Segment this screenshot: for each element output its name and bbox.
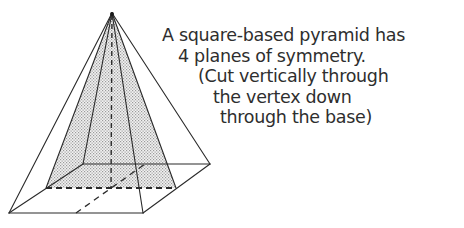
caption-line-2: 4 planes of symmetry. [178,46,366,66]
apex-vertex [110,12,114,16]
caption-line-4: the vertex down [213,87,352,107]
caption-line-5: through the base) [220,107,372,127]
caption-line-3: (Cut vertically through [198,66,388,86]
caption-line-1: A square-based pyramid has [162,25,405,45]
